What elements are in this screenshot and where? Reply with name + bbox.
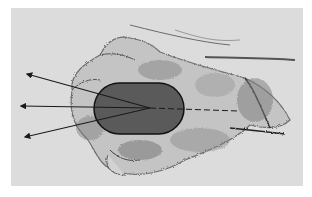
hand-mouse-illustration — [0, 0, 312, 197]
